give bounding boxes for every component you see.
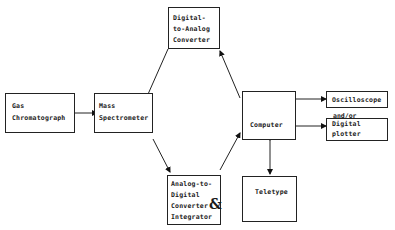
node-gas-chromatograph: Gas Chromatograph bbox=[5, 93, 75, 133]
node-label: Converter bbox=[173, 34, 210, 46]
node-label: Oscilloscope bbox=[332, 94, 381, 106]
edge-adc-to-computer bbox=[220, 133, 240, 170]
node-label: plotter bbox=[332, 128, 361, 140]
node-teletype: Teletype bbox=[242, 176, 297, 222]
node-digital-to-analog-converter: Digital- to-Analog Converter bbox=[168, 7, 220, 49]
edge-ms-to-adc bbox=[153, 139, 170, 172]
node-label: Chromatograph bbox=[12, 112, 65, 124]
node-label: Mass bbox=[99, 100, 115, 112]
node-oscilloscope: Oscilloscope bbox=[326, 91, 388, 108]
ampersand-mark: & bbox=[209, 196, 222, 212]
node-label: Gas bbox=[12, 100, 24, 112]
node-label: Spectrometer bbox=[99, 112, 148, 124]
node-label: Integrator bbox=[171, 211, 212, 223]
node-label: Computer bbox=[250, 119, 283, 131]
node-digital-plotter: Digital plotter bbox=[326, 118, 388, 141]
edge-computer-to-dac bbox=[220, 51, 240, 98]
node-mass-spectrometer: Mass Spectrometer bbox=[94, 93, 153, 133]
node-label: Teletype bbox=[255, 186, 288, 198]
node-analog-to-digital-converter-integrator: Analog-to- Digital Converter & Integrato… bbox=[167, 175, 221, 225]
node-computer: Computer bbox=[242, 91, 296, 140]
